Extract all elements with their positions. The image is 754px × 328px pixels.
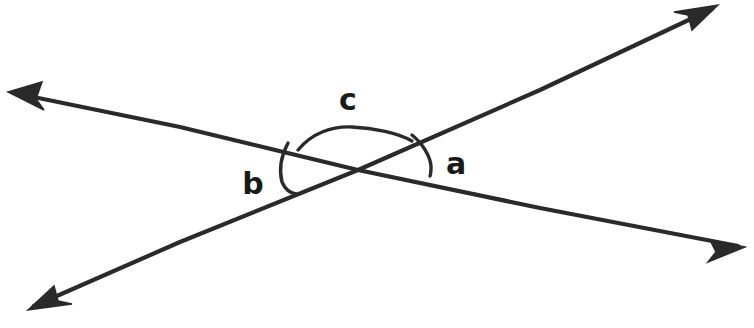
diagram-canvas: c a b bbox=[0, 0, 754, 328]
angle-label-a: a bbox=[446, 146, 466, 181]
diagram-background bbox=[0, 0, 754, 328]
angle-label-c: c bbox=[339, 82, 357, 117]
angle-label-b: b bbox=[242, 166, 263, 201]
geometry-diagram: c a b bbox=[0, 0, 754, 328]
